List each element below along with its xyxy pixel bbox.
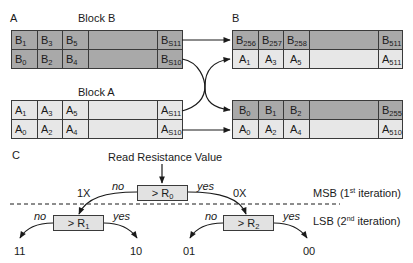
comparator-r2: > R2 xyxy=(223,215,274,231)
r2-yes-label: yes xyxy=(283,211,300,222)
input-label: Read Resistance Value xyxy=(108,152,222,163)
output-10: 10 xyxy=(130,246,142,257)
output-00: 00 xyxy=(303,246,315,257)
arrow-r2-no xyxy=(190,223,223,238)
lsb-label: LSB (2nd iteration) xyxy=(313,216,400,227)
r1-no-label: no xyxy=(34,211,46,222)
output-01: 01 xyxy=(183,246,195,257)
arrow-r2-yes xyxy=(274,223,307,238)
arrow-bs10-to-b0 xyxy=(182,59,230,110)
output-11: 11 xyxy=(14,246,25,257)
arrow-as11-to-a1 xyxy=(182,59,230,111)
root-yes-label: yes xyxy=(197,181,214,192)
comparator-r0: > R0 xyxy=(137,185,188,201)
arrow-r1-no xyxy=(20,223,53,238)
branch-1x-label: 1X xyxy=(77,188,90,199)
branch-0x-label: 0X xyxy=(233,188,246,199)
r2-no-label: no xyxy=(205,211,217,222)
comparator-r1: > R1 xyxy=(53,215,104,231)
panel-c-label: C xyxy=(12,150,20,161)
root-no-label: no xyxy=(112,181,124,192)
r1-yes-label: yes xyxy=(113,211,130,222)
msb-label: MSB (1st iteration) xyxy=(313,188,401,199)
arrow-r1-yes xyxy=(104,223,137,238)
